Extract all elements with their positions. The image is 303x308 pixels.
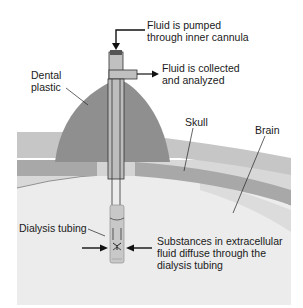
label-fluid-collected: Fluid is collected and analyzed <box>162 62 240 86</box>
label-text: dialysis tubing <box>157 259 282 271</box>
label-text: through inner cannula <box>147 31 249 43</box>
label-text: Dental <box>31 69 61 81</box>
label-skull: Skull <box>185 116 208 128</box>
label-brain: Brain <box>255 124 280 136</box>
label-text: Fluid is pumped <box>147 19 249 31</box>
label-fluid-pumped: Fluid is pumped through inner cannula <box>147 19 249 43</box>
label-text: fluid diffuse through the <box>157 247 282 259</box>
label-dialysis-tubing: Dialysis tubing <box>19 222 87 234</box>
label-text: and analyzed <box>162 74 240 86</box>
label-substances: Substances in extracellular fluid diffus… <box>157 235 282 271</box>
pump-arrow <box>112 30 145 50</box>
microdialysis-diagram: Fluid is pumped through inner cannula Fl… <box>0 0 303 308</box>
label-dental-plastic: Dental plastic <box>31 69 61 93</box>
label-text: Substances in extracellular <box>157 235 282 247</box>
collect-arrow <box>137 71 159 78</box>
dental-leader <box>66 88 88 105</box>
label-text: Fluid is collected <box>162 62 240 74</box>
label-text: plastic <box>31 81 61 93</box>
